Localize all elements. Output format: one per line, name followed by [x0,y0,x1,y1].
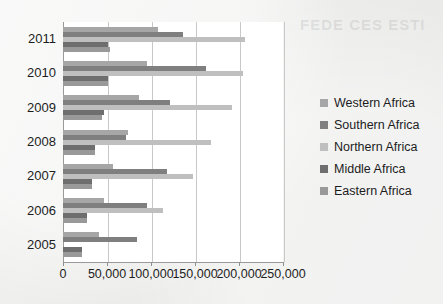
x-axis-tick [195,262,196,266]
legend-item[interactable]: Eastern Africa [320,180,440,202]
legend-label: Western Africa [334,96,415,110]
x-axis-line [63,262,284,263]
y-axis-tick-label: 2011 [8,31,56,46]
bar [63,47,110,52]
legend-label: Southern Africa [334,118,419,132]
legend-label: Middle Africa [334,162,406,176]
legend-item[interactable]: Northern Africa [320,136,440,158]
y-axis-tick-label: 2010 [8,65,56,80]
legend-swatch-icon [320,99,328,107]
bar [63,237,137,242]
x-axis-tick-label: 250,000 [260,267,305,281]
chart-legend: Western AfricaSouthern AfricaNorthern Af… [320,92,440,202]
y-axis-tick-label: 2007 [8,168,56,183]
legend-swatch-icon [320,143,328,151]
y-axis-tick-label: 2008 [8,134,56,149]
x-axis-tick-label: 150,000 [172,267,217,281]
legend-label: Eastern Africa [334,184,412,198]
x-axis-tick-label: 50,000 [88,267,126,281]
gridline [284,22,285,262]
x-axis-tick [107,262,108,266]
legend-item[interactable]: Western Africa [320,92,440,114]
bar-chart: 050,000100,000150,000200,000250,000 West… [0,0,443,304]
bar [63,81,108,86]
x-axis-tick-label: 200,000 [216,267,261,281]
x-axis-tick [283,262,284,266]
bar [63,218,87,223]
x-axis-tick-labels: 050,000100,000150,000200,000250,000 [0,267,320,287]
gridline [240,22,241,262]
legend-item[interactable]: Southern Africa [320,114,440,136]
bar [63,184,92,189]
legend-swatch-icon [320,165,328,173]
y-axis-tick-label: 2006 [8,203,56,218]
bar [63,252,82,257]
x-axis-tick [151,262,152,266]
legend-label: Northern Africa [334,140,417,154]
legend-swatch-icon [320,187,328,195]
bar [63,115,102,120]
x-axis-tick-label: 100,000 [128,267,173,281]
y-axis-tick-label: 2009 [8,100,56,115]
legend-item[interactable]: Middle Africa [320,158,440,180]
x-axis-tick [63,262,64,266]
x-axis-tick-label: 0 [60,267,67,281]
legend-swatch-icon [320,121,328,129]
x-axis-tick [239,262,240,266]
bar [63,150,95,155]
y-axis-tick-label: 2005 [8,237,56,252]
